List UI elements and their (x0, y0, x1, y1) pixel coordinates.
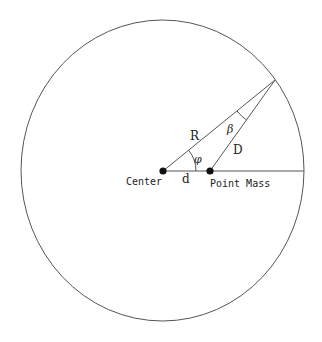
radius-line-R (163, 80, 275, 171)
label-D: D (233, 143, 243, 157)
label-point-mass: Point Mass (210, 178, 270, 189)
label-center: Center (126, 176, 162, 187)
beta-angle-arc (237, 111, 247, 120)
label-phi: φ (194, 153, 202, 166)
label-R: R (190, 129, 200, 143)
label-d: d (182, 172, 190, 186)
point-mass-dot (206, 167, 213, 174)
point-mass-geometry-diagram: R D d φ β Center Point Mass (0, 0, 322, 342)
label-beta: β (226, 123, 233, 136)
center-dot (159, 167, 166, 174)
